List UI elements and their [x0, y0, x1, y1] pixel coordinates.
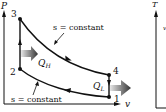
- t-axis-arrow-icon: [154, 10, 158, 17]
- state-label-4: 4: [113, 66, 119, 76]
- process-3-4-arrow-icon: [65, 55, 73, 61]
- p-axis-label: P: [0, 1, 8, 11]
- process-2-3-arrow-icon: [18, 39, 22, 45]
- lower-leader-arrow-icon: [35, 81, 39, 86]
- state-label-3: 3: [11, 9, 17, 19]
- state-label-1: 1: [114, 94, 120, 104]
- v-axis-label: v: [125, 99, 130, 109]
- heat-out-label: QL: [93, 81, 104, 92]
- pv-diagram: P v 3 2 4 1 s = constant s = constant QH…: [0, 0, 166, 112]
- upper-isentrope-leader: [56, 33, 64, 42]
- lower-isentrope-label: s = constant: [11, 95, 63, 104]
- partial-ts-diagram: T v: [152, 0, 166, 108]
- heat-in-label: QH: [38, 58, 51, 69]
- lower-isentrope-leader: [33, 84, 37, 95]
- t-axis-label: T: [152, 0, 158, 9]
- heat-in-arrow-icon: [21, 46, 38, 61]
- p-axis-arrow-icon: [2, 10, 6, 17]
- state-point-4: [107, 73, 111, 77]
- p-axis: [2, 10, 6, 104]
- state-label-2: 2: [10, 67, 16, 77]
- state-point-2: [18, 67, 22, 71]
- upper-isentrope-label: s = constant: [53, 23, 105, 32]
- state-point-3: [18, 17, 22, 21]
- partial-v-label: v: [163, 24, 166, 31]
- process-1-2-arrow-icon: [64, 88, 71, 93]
- state-point-1: [107, 95, 111, 99]
